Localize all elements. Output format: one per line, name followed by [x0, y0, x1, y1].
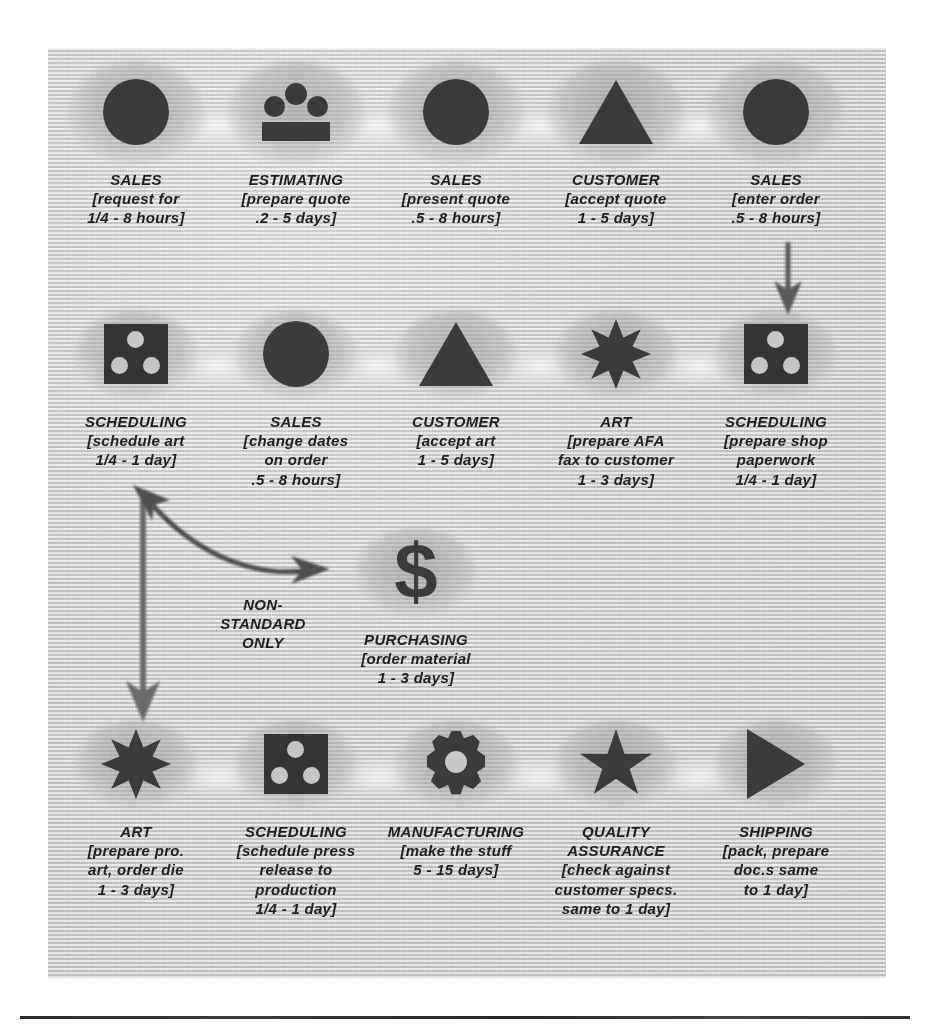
gear-icon	[423, 731, 489, 797]
node-detail-line: 1 - 3 days]	[336, 668, 496, 687]
node-shape-container	[56, 708, 216, 820]
node-detail-line: 1/4 - 1 day]	[696, 470, 856, 489]
process-node-art-prepare-afa[interactable]: ART [prepare AFA fax to customer 1 - 3 d…	[536, 298, 696, 489]
nonstandard-only-annotation: NON- STANDARD ONLY	[208, 596, 318, 652]
node-department: SCHEDULING	[696, 412, 856, 431]
scanned-page-canvas: SALES [request for 1/4 - 8 hours] ESTIMA…	[48, 48, 886, 978]
node-detail-line: paperwork	[696, 450, 856, 469]
node-shape-container: $	[336, 516, 496, 628]
process-node-purchasing-order-material[interactable]: $ PURCHASING [order material 1 - 3 days]	[336, 516, 496, 688]
process-node-sales-change-dates[interactable]: SALES [change dates on order .5 - 8 hour…	[216, 298, 376, 489]
node-detail-line: 1 - 3 days]	[56, 880, 216, 899]
node-detail-line: customer specs.	[536, 880, 696, 899]
node-detail-line: [present quote	[376, 189, 536, 208]
node-detail-line: [accept art	[376, 431, 536, 450]
node-detail-line: 1 - 3 days]	[536, 470, 696, 489]
process-node-sales-present-quote[interactable]: SALES [present quote .5 - 8 hours]	[376, 56, 536, 228]
node-label: SALES [change dates on order .5 - 8 hour…	[216, 412, 376, 489]
annotation-line: ONLY	[208, 634, 318, 653]
node-detail-line: same to 1 day]	[536, 899, 696, 918]
node-detail-line: 5 - 15 days]	[376, 860, 536, 879]
node-department: CUSTOMER	[536, 170, 696, 189]
node-department: SALES	[216, 412, 376, 431]
node-department: SHIPPING	[696, 822, 856, 841]
process-node-quality-assurance[interactable]: QUALITY ASSURANCE [check against custome…	[536, 708, 696, 918]
process-node-manufacturing-make[interactable]: MANUFACTURING [make the stuff 5 - 15 day…	[376, 708, 536, 880]
node-detail-line: [schedule press	[216, 841, 376, 860]
node-department: SCHEDULING	[216, 822, 376, 841]
node-detail-line: release to	[216, 860, 376, 879]
node-shape-container	[536, 56, 696, 168]
annotation-line: STANDARD	[208, 615, 318, 634]
square-three-dots-icon	[744, 324, 808, 384]
node-label: CUSTOMER [accept art 1 - 5 days]	[376, 412, 536, 470]
node-department: ART	[536, 412, 696, 431]
node-label: SALES [enter order .5 - 8 hours]	[696, 170, 856, 228]
node-detail-line: .5 - 8 hours]	[216, 470, 376, 489]
node-detail-line: [order material	[336, 649, 496, 668]
page-footer-rule	[20, 1016, 910, 1019]
node-shape-container	[216, 298, 376, 410]
node-detail-line: 1 - 5 days]	[536, 208, 696, 227]
process-node-scheduling-press-release[interactable]: SCHEDULING [schedule press release to pr…	[216, 708, 376, 918]
node-detail-line: fax to customer	[536, 450, 696, 469]
node-shape-container	[376, 708, 536, 820]
node-shape-container	[376, 56, 536, 168]
node-detail-line: 1/4 - 1 day]	[216, 899, 376, 918]
node-detail-line: on order	[216, 450, 376, 469]
node-detail-line: [prepare AFA	[536, 431, 696, 450]
process-node-sales-request[interactable]: SALES [request for 1/4 - 8 hours]	[56, 56, 216, 228]
node-detail-line: [enter order	[696, 189, 856, 208]
process-node-estimating-quote[interactable]: ESTIMATING [prepare quote .2 - 5 days]	[216, 56, 376, 228]
triangle-icon	[419, 322, 493, 386]
node-detail-line: [accept quote	[536, 189, 696, 208]
node-detail-line: [change dates	[216, 431, 376, 450]
node-label: QUALITY ASSURANCE [check against custome…	[536, 822, 696, 918]
node-department: ASSURANCE	[536, 841, 696, 860]
node-detail-line: [prepare shop	[696, 431, 856, 450]
node-detail-line: doc.s same	[696, 860, 856, 879]
dollar-sign-icon: $	[394, 540, 437, 604]
node-department: QUALITY	[536, 822, 696, 841]
node-detail-line: [pack, prepare	[696, 841, 856, 860]
node-detail-line: [check against	[536, 860, 696, 879]
node-label: MANUFACTURING [make the stuff 5 - 15 day…	[376, 822, 536, 880]
square-three-dots-icon	[104, 324, 168, 384]
node-detail-line: [prepare pro.	[56, 841, 216, 860]
node-shape-container	[216, 56, 376, 168]
process-node-customer-accept-quote[interactable]: CUSTOMER [accept quote 1 - 5 days]	[536, 56, 696, 228]
process-node-sales-enter-order[interactable]: SALES [enter order .5 - 8 hours]	[696, 56, 856, 228]
circle-icon	[263, 321, 329, 387]
process-node-scheduling-schedule-art[interactable]: SCHEDULING [schedule art 1/4 - 1 day]	[56, 298, 216, 470]
node-label: PURCHASING [order material 1 - 3 days]	[336, 630, 496, 688]
circle-icon	[423, 79, 489, 145]
node-detail-line: [request for	[56, 189, 216, 208]
node-label: SCHEDULING [prepare shop paperwork 1/4 -…	[696, 412, 856, 489]
node-label: SCHEDULING [schedule press release to pr…	[216, 822, 376, 918]
starburst-icon	[101, 729, 171, 799]
node-label: ART [prepare AFA fax to customer 1 - 3 d…	[536, 412, 696, 489]
node-department: SALES	[376, 170, 536, 189]
node-detail-line: to 1 day]	[696, 880, 856, 899]
node-department: SALES	[696, 170, 856, 189]
triangle-icon	[579, 80, 653, 144]
process-node-shipping-pack[interactable]: SHIPPING [pack, prepare doc.s same to 1 …	[696, 708, 856, 899]
process-node-customer-accept-art[interactable]: CUSTOMER [accept art 1 - 5 days]	[376, 298, 536, 470]
people-group-icon	[260, 83, 332, 141]
node-label: ART [prepare pro. art, order die 1 - 3 d…	[56, 822, 216, 899]
node-department: SALES	[56, 170, 216, 189]
node-shape-container	[536, 298, 696, 410]
starburst-icon	[581, 319, 651, 389]
process-node-art-prepare-pro-art[interactable]: ART [prepare pro. art, order die 1 - 3 d…	[56, 708, 216, 899]
node-detail-line: production	[216, 880, 376, 899]
node-detail-line: .5 - 8 hours]	[696, 208, 856, 227]
node-shape-container	[696, 298, 856, 410]
node-detail-line: .2 - 5 days]	[216, 208, 376, 227]
node-label: SCHEDULING [schedule art 1/4 - 1 day]	[56, 412, 216, 470]
node-shape-container	[536, 708, 696, 820]
node-detail-line: [schedule art	[56, 431, 216, 450]
node-department: PURCHASING	[336, 630, 496, 649]
node-shape-container	[56, 298, 216, 410]
node-department: CUSTOMER	[376, 412, 536, 431]
process-node-scheduling-shop-paperwork[interactable]: SCHEDULING [prepare shop paperwork 1/4 -…	[696, 298, 856, 489]
